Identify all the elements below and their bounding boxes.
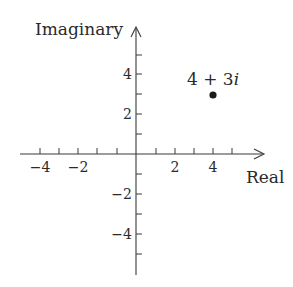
- y-tick-label: −4: [111, 226, 132, 242]
- x-tick-label: 4: [209, 159, 218, 175]
- complex-plane-diagram: Imaginary Real −4 −2 2 4 4 2 −2 −4 4 + 3…: [0, 0, 293, 287]
- y-tick-label: −2: [111, 186, 132, 202]
- diagram-canvas: Imaginary Real −4 −2 2 4 4 2 −2 −4 4 + 3…: [0, 0, 293, 287]
- imaginary-axis-label: Imaginary: [35, 19, 124, 39]
- point-label-imaginary-unit: i: [234, 69, 239, 89]
- real-axis: [20, 148, 264, 159]
- x-tick-label: −4: [30, 159, 51, 175]
- x-tick-label: 2: [171, 159, 180, 175]
- imaginary-axis: [131, 27, 142, 275]
- point-label-text: 4 + 3: [187, 69, 234, 89]
- x-tick-label: −2: [68, 159, 89, 175]
- point-marker: [209, 91, 216, 98]
- y-tick-label: 2: [123, 106, 132, 122]
- real-axis-label: Real: [246, 167, 284, 187]
- y-tick-label: 4: [123, 66, 132, 82]
- point-label: 4 + 3i: [187, 69, 239, 89]
